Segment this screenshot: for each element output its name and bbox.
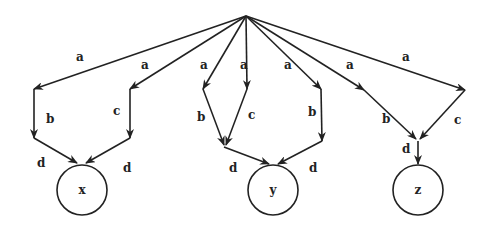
edge-b-path-3-to-y bbox=[203, 89, 224, 145]
edge-label-a: a bbox=[76, 50, 84, 64]
edge-label-b: b bbox=[382, 112, 390, 126]
edge-label-c: c bbox=[113, 104, 120, 118]
edge-label-a: a bbox=[141, 58, 149, 72]
edge-a-path-6-to-z bbox=[246, 16, 364, 90]
edge-label-b: b bbox=[197, 110, 205, 124]
edge-label-d: d bbox=[37, 156, 46, 170]
nodes-group: xyz bbox=[57, 165, 443, 215]
node-y: y bbox=[248, 165, 298, 215]
edge-label-b: b bbox=[308, 105, 316, 119]
edge-a-path-4-to-y bbox=[246, 16, 247, 89]
edge-label-c: c bbox=[248, 108, 255, 122]
edge-a-path-3-to-y bbox=[203, 16, 246, 89]
edge-d-path-2-to-x bbox=[86, 138, 130, 163]
edge-label-a: a bbox=[346, 58, 354, 72]
edge-a-path-7-to-z bbox=[246, 16, 465, 90]
edge-label-b: b bbox=[46, 112, 54, 126]
dag-diagram: xyz aaaaaaabcbcbbcddddd bbox=[0, 0, 488, 228]
node-label-z: z bbox=[415, 183, 422, 197]
node-label-y: y bbox=[269, 183, 278, 197]
edge-label-a: a bbox=[284, 58, 292, 72]
edge-b-path-5-to-y bbox=[321, 89, 322, 141]
edge-label-a: a bbox=[402, 50, 410, 64]
edge-label-c: c bbox=[454, 113, 461, 127]
edge-a-path-1-to-x bbox=[34, 16, 246, 89]
edge-label-d: d bbox=[402, 142, 411, 156]
node-label-x: x bbox=[78, 183, 86, 197]
edge-label-d: d bbox=[123, 161, 132, 175]
edge-a-path-5-to-y bbox=[246, 16, 321, 89]
edge-label-a: a bbox=[200, 58, 208, 72]
node-x: x bbox=[57, 165, 107, 215]
edges-group bbox=[34, 16, 465, 164]
edge-c-path-4-to-y bbox=[226, 89, 247, 145]
edge-label-d: d bbox=[229, 161, 238, 175]
edge-label-d: d bbox=[309, 161, 318, 175]
edge-a-path-2-to-x bbox=[130, 16, 246, 89]
node-z: z bbox=[393, 165, 443, 215]
edge-label-a: a bbox=[240, 58, 248, 72]
